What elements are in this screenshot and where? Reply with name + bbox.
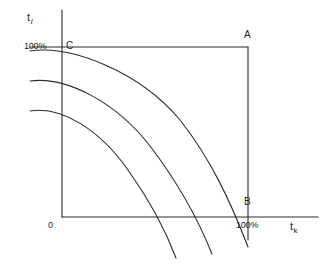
technical-diagram-figure: tl tk 100% 100% A B C 0 [0, 0, 333, 269]
point-label-b: B [244, 197, 251, 207]
point-label-a: A [244, 30, 251, 40]
y-axis-tick-label-100-percent: 100% [24, 42, 46, 51]
curve-lower [30, 110, 176, 258]
x-axis-label-subscript: k [293, 226, 297, 235]
point-label-c: C [66, 41, 73, 51]
x-axis-tick-label-100-percent: 100% [236, 221, 258, 230]
curve-middle [30, 80, 212, 254]
origin-label: 0 [48, 221, 53, 230]
x-axis-label: tk [290, 221, 297, 235]
y-axis-label-subscript: l [30, 17, 32, 26]
y-axis-label: tl [27, 12, 32, 26]
